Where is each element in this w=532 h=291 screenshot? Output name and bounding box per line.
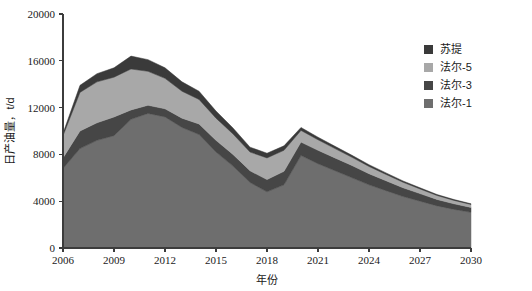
x-tick-label-1: 2009	[103, 254, 126, 266]
x-tick-label-3: 2015	[205, 254, 228, 266]
x-tick-label-7: 2027	[409, 254, 432, 266]
y-tick-label-1: 4000	[33, 195, 56, 207]
y-tick-label-2: 8000	[33, 148, 56, 160]
x-axis-title: 年份	[256, 273, 278, 286]
y-tick-label-0: 0	[50, 242, 56, 254]
y-tick-label-5: 20000	[28, 8, 56, 20]
legend-label-0: 苏提	[440, 43, 462, 55]
x-tick-label-4: 2018	[256, 254, 279, 266]
stacked-area-chart: 040008000120001600020000 200620092012201…	[0, 0, 532, 291]
x-tick-label-8: 2030	[460, 254, 483, 266]
x-tick-label-6: 2024	[358, 254, 381, 266]
y-axis-title: 日产油量，t/d	[3, 97, 16, 164]
x-tick-label-5: 2021	[307, 254, 329, 266]
legend-swatch-1	[424, 63, 433, 72]
legend-label-1: 法尔-5	[440, 60, 472, 73]
legend-swatch-0	[424, 45, 433, 54]
x-tick-label-2: 2012	[154, 254, 176, 266]
x-tick-label-0: 2006	[52, 254, 75, 266]
area-series-group	[63, 56, 471, 248]
legend-label-3: 法尔-1	[440, 96, 472, 109]
x-tick-labels-group: 200620092012201520182021202420272030	[52, 254, 483, 266]
chart-canvas: 040008000120001600020000 200620092012201…	[0, 0, 532, 291]
legend-label-2: 法尔-3	[440, 78, 472, 91]
legend-swatch-3	[424, 99, 433, 108]
legend: 苏提法尔-5法尔-3法尔-1	[424, 43, 472, 109]
legend-swatch-2	[424, 81, 433, 90]
y-tick-label-3: 12000	[28, 102, 56, 114]
y-tick-labels-group: 040008000120001600020000	[28, 8, 56, 254]
y-tick-label-4: 16000	[28, 55, 56, 67]
